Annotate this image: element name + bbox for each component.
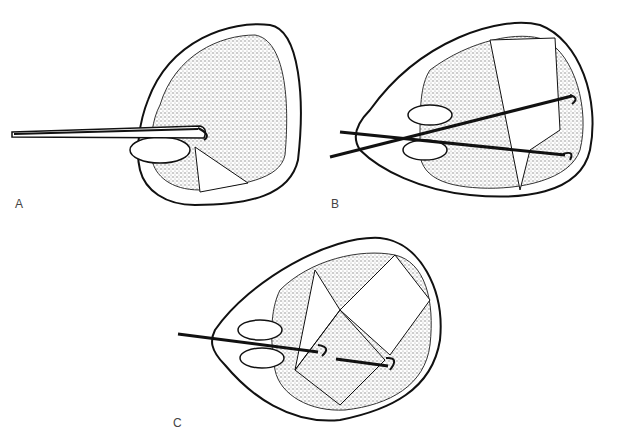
panel-label-a: A: [15, 197, 23, 211]
panel-label-b: B: [331, 197, 339, 211]
figure-canvas: [0, 0, 619, 440]
panel-b-illustration: [330, 23, 593, 197]
panel-label-c: C: [173, 416, 182, 430]
panel-c-illustration: [178, 238, 441, 421]
panel-a-illustration: [12, 24, 301, 205]
